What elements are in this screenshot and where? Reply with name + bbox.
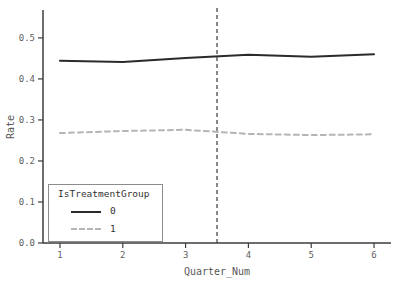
x-tick-label: 3 [183,250,188,260]
legend: IsTreatmentGroup 0 1 [48,184,163,242]
y-tick-label: 0.5 [19,33,35,43]
line-chart: 0.00.10.20.30.40.5123456 Rate Quarter_Nu… [0,0,403,286]
x-tick-label: 1 [57,250,62,260]
legend-entry-group1: 1 [71,224,150,234]
x-tick-label: 4 [246,250,251,260]
x-tick-label: 2 [120,250,125,260]
y-tick-label: 0.1 [19,197,35,207]
legend-entry-group0: 0 [71,206,150,216]
y-tick-label: 0.3 [19,115,35,125]
legend-label-group0: 0 [110,206,116,216]
y-axis-label: Rate [5,115,16,139]
x-axis-label: Quarter_Num [184,266,250,277]
legend-title: IsTreatmentGroup [58,189,150,199]
solid-line-sample [71,211,101,213]
x-tick-label: 6 [371,250,376,260]
y-tick-label: 0.0 [19,238,35,248]
dashed-line-sample [71,228,101,230]
legend-label-group1: 1 [110,224,116,234]
y-tick-label: 0.4 [19,74,35,84]
x-tick-label: 5 [309,250,314,260]
chart-canvas: 0.00.10.20.30.40.5123456 [0,0,403,286]
y-tick-label: 0.2 [19,156,35,166]
